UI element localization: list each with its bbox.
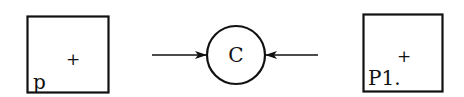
right-box-marker: + xyxy=(397,46,411,66)
diagram-canvas: + p C + P1. xyxy=(0,0,464,97)
left-box-marker: + xyxy=(66,49,80,69)
center-node-label: C xyxy=(228,43,243,67)
left-box: + p xyxy=(28,17,109,95)
right-box-label: P1. xyxy=(368,66,401,90)
left-box-label: p xyxy=(33,70,46,94)
right-box: + P1. xyxy=(364,15,443,92)
center-node: C xyxy=(207,26,265,84)
